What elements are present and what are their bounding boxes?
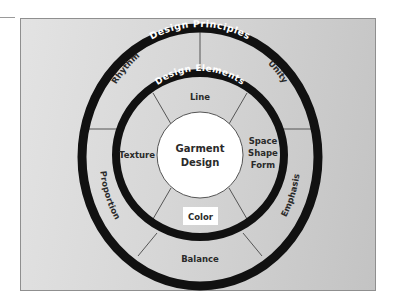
- diagram-canvas: Design Principles Design Elements Rhythm…: [0, 0, 398, 307]
- divider-inner-lr: [229, 188, 247, 219]
- segment-shape: Shape: [248, 148, 278, 158]
- garment-design-diagram: Design Principles Design Elements Rhythm…: [0, 0, 398, 307]
- divider-inner-ll: [153, 188, 171, 219]
- center-label-line1: Garment: [176, 143, 225, 154]
- segment-line: Line: [190, 92, 210, 102]
- divider-lower-right: [243, 233, 262, 256]
- segment-texture: Texture: [119, 150, 155, 160]
- divider-inner-ul: [153, 93, 171, 124]
- segment-space: Space: [249, 136, 278, 146]
- divider-inner-ur: [229, 93, 247, 124]
- center-label-line2: Design: [181, 157, 220, 168]
- divider-lower-left: [138, 233, 157, 256]
- center-circle: [157, 112, 243, 198]
- segment-balance: Balance: [181, 254, 219, 264]
- segment-form: Form: [251, 160, 275, 170]
- segment-color: Color: [188, 212, 214, 222]
